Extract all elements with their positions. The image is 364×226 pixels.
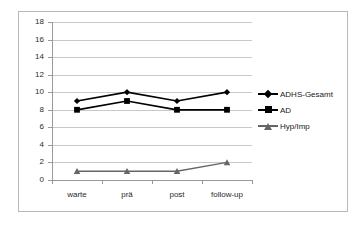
triangle-marker-icon (264, 123, 272, 130)
y-axis-label: 14 (0, 53, 44, 61)
y-axis-label: 2 (0, 158, 44, 166)
y-axis-tick (48, 127, 52, 128)
plot-background (52, 22, 252, 180)
legend-swatch-diamond (258, 88, 278, 100)
legend-swatch-triangle (258, 120, 278, 132)
y-axis-label: 6 (0, 123, 44, 131)
y-axis-tick (48, 57, 52, 58)
gridline (52, 22, 252, 23)
y-axis-tick (48, 110, 52, 111)
x-axis-label: follow-up (202, 190, 252, 199)
plot-area (52, 22, 252, 180)
chart-legend: ADHS-Gesamt AD Hyp/Imp (258, 86, 344, 134)
x-axis-label: post (152, 190, 202, 199)
x-axis-label: warte (52, 190, 102, 199)
gridline (52, 162, 252, 163)
gridline (52, 57, 252, 58)
legend-label: AD (280, 106, 291, 115)
y-axis-label: 10 (0, 88, 44, 96)
gridline (52, 127, 252, 128)
x-axis-tick (52, 180, 53, 184)
legend-swatch-square (258, 104, 278, 116)
y-axis-label: 0 (0, 176, 44, 184)
square-marker-icon (265, 106, 272, 113)
y-axis-label: 12 (0, 71, 44, 79)
legend-item-ad: AD (258, 102, 344, 118)
x-axis-tick (152, 180, 153, 184)
legend-item-adhs-gesamt: ADHS-Gesamt (258, 86, 344, 102)
y-axis-tick (48, 75, 52, 76)
x-axis-tick (252, 180, 253, 184)
legend-item-hyp-imp: Hyp/Imp (258, 118, 344, 134)
y-axis-tick (48, 92, 52, 93)
x-axis-tick (202, 180, 203, 184)
legend-label: ADHS-Gesamt (280, 90, 333, 99)
y-axis-label: 16 (0, 36, 44, 44)
y-axis-tick (48, 40, 52, 41)
gridline (52, 40, 252, 41)
legend-label: Hyp/Imp (280, 122, 310, 131)
gridline (52, 92, 252, 93)
y-axis-label: 4 (0, 141, 44, 149)
y-axis-label: 8 (0, 106, 44, 114)
diamond-marker-icon (264, 90, 272, 98)
gridline (52, 110, 252, 111)
y-axis-tick (48, 145, 52, 146)
y-axis-label: 18 (0, 18, 44, 26)
gridline (52, 145, 252, 146)
x-axis-label: prä (102, 190, 152, 199)
y-axis-tick (48, 22, 52, 23)
y-axis-tick (48, 162, 52, 163)
gridline (52, 75, 252, 76)
y-axis-line (52, 22, 53, 181)
chart-screenshot: 181614121086420 wartepräpostfollow-up AD… (0, 0, 364, 226)
x-axis-tick (102, 180, 103, 184)
